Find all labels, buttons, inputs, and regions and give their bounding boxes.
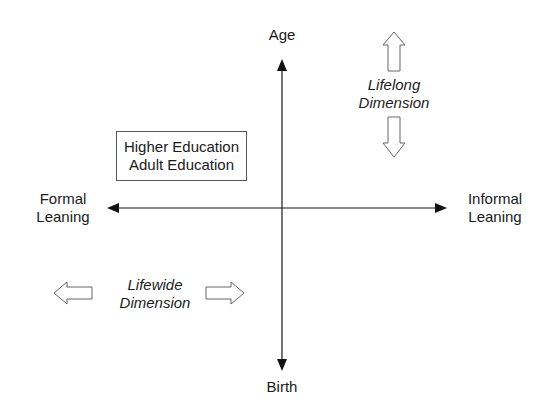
axis-label-informal-learning: Informal Leaning: [462, 190, 528, 226]
arrow-left-head-icon: [107, 203, 119, 213]
arrow-right-head-icon: [435, 203, 447, 213]
axis-label-birth: Birth: [257, 378, 307, 396]
lifewide-line-1: Lifewide: [113, 276, 197, 294]
horizontal-axis: [107, 203, 447, 213]
lifelong-line-2: Dimension: [358, 94, 430, 112]
lifewide-left-arrow-icon: [54, 282, 92, 304]
formal-label-line-1: Formal: [30, 190, 96, 208]
lifewide-dimension-label: Lifewide Dimension: [113, 276, 197, 312]
informal-label-line-1: Informal: [462, 190, 528, 208]
vertical-axis: [277, 59, 287, 371]
lifelong-dimension-label: Lifelong Dimension: [358, 76, 430, 112]
axis-label-age: Age: [262, 26, 302, 44]
arrow-up-head-icon: [277, 59, 287, 71]
lifelong-down-arrow-icon: [383, 117, 405, 157]
diagram-canvas: Age Birth Formal Leaning Informal Leanin…: [0, 0, 550, 417]
lifewide-right-arrow-icon: [206, 282, 244, 304]
axis-label-formal-learning: Formal Leaning: [30, 190, 96, 226]
education-box: Higher Education Adult Education: [116, 131, 247, 181]
box-line-adult-education: Adult Education: [129, 156, 234, 174]
lifelong-up-arrow-icon: [383, 32, 405, 71]
box-line-higher-education: Higher Education: [124, 138, 239, 156]
formal-label-line-2: Leaning: [30, 208, 96, 226]
arrow-down-head-icon: [277, 359, 287, 371]
lifelong-line-1: Lifelong: [358, 76, 430, 94]
informal-label-line-2: Leaning: [462, 208, 528, 226]
lifewide-line-2: Dimension: [113, 294, 197, 312]
